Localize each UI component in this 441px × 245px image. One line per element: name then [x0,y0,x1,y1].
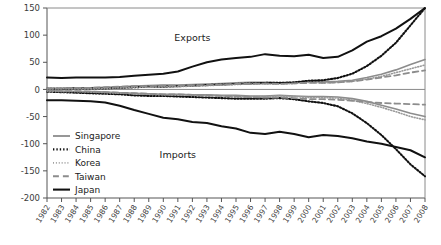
y-tick-label: 100 [24,30,40,40]
legend-label-china: China [75,145,101,155]
line-chart: 150100500-50-100-150-200 198219831984198… [0,0,441,245]
x-tick-label: 2008 [412,203,430,224]
y-tick-label: 150 [24,3,40,13]
legend-label-korea: Korea [75,158,101,168]
y-axis-ticks: 150100500-50-100-150-200 [21,3,47,203]
y-tick-label: -200 [21,193,40,203]
legend-label-taiwan: Taiwan [74,172,106,182]
series-line-japan-exports [47,8,425,78]
series-line-taiwan-exports [47,70,425,88]
annotation-exports: Exports [174,32,210,43]
chart-container: 150100500-50-100-150-200 198219831984198… [0,0,441,245]
annotation-imports: Imports [160,149,197,160]
x-axis-ticks: 1982198319841985198619871988198919901991… [34,198,430,224]
y-tick-label: -50 [26,112,40,122]
chart-legend: SingaporeChinaKoreaTaiwanJapan [53,131,121,195]
y-tick-label: -100 [21,139,40,149]
series-line-japan-imports [47,100,425,157]
y-tick-label: -150 [21,166,40,176]
y-tick-label: 0 [35,85,40,95]
legend-label-singapore: Singapore [75,131,121,141]
legend-label-japan: Japan [74,185,100,195]
y-tick-label: 50 [29,57,40,67]
series-lines [47,8,425,176]
